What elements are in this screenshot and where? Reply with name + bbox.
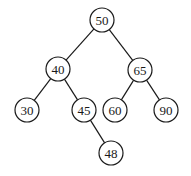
tree-node-65: 65	[128, 58, 152, 82]
tree-node-48: 48	[99, 141, 123, 165]
node-label: 40	[52, 62, 65, 77]
binary-tree-diagram: 5040653045609048	[0, 0, 191, 176]
node-label: 50	[96, 13, 109, 28]
tree-edge-40-45	[64, 79, 77, 100]
tree-node-90: 90	[154, 98, 178, 122]
tree-edge-45-48	[90, 120, 104, 143]
tree-node-30: 30	[15, 98, 39, 122]
tree-edge-65-90	[147, 80, 160, 100]
tree-edges	[34, 29, 159, 143]
node-label: 60	[109, 103, 122, 118]
tree-edge-50-65	[109, 30, 132, 61]
node-label: 30	[21, 103, 34, 118]
node-label: 90	[160, 103, 173, 118]
node-label: 48	[105, 146, 118, 161]
tree-edge-50-40	[66, 29, 94, 60]
node-label: 65	[134, 63, 147, 78]
tree-nodes: 5040653045609048	[15, 8, 178, 165]
tree-node-45: 45	[72, 98, 96, 122]
tree-edge-40-30	[34, 79, 51, 101]
tree-node-50: 50	[90, 8, 114, 32]
tree-edge-65-60	[121, 80, 133, 100]
node-label: 45	[78, 103, 91, 118]
tree-node-40: 40	[46, 57, 70, 81]
tree-node-60: 60	[103, 98, 127, 122]
